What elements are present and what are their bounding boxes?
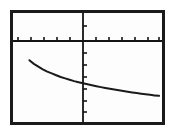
screenshot-root [0,0,174,138]
plot-surface[interactable] [13,13,162,122]
calculator-screen-frame [10,10,165,125]
plotted-curve[interactable] [29,60,159,96]
